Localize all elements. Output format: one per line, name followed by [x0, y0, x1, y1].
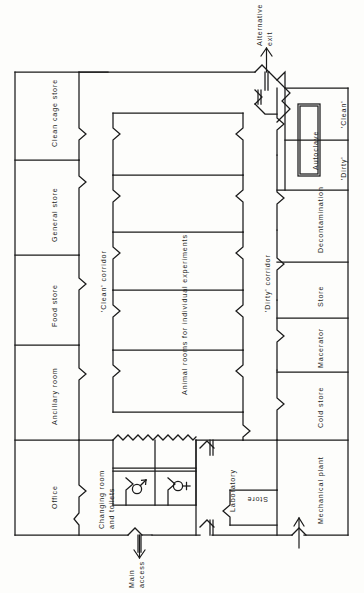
room-label-decontamination: Decontamination — [317, 186, 327, 253]
room-label-store-right: Store — [317, 286, 327, 307]
room-label-general-store: General store — [51, 187, 61, 242]
down-arrow-icon — [132, 534, 148, 560]
room-label-mechanical-plant: Mechanical plant — [317, 456, 327, 524]
room-label-store-lab: Store — [247, 493, 268, 503]
room-label-food-store: Food store — [51, 284, 61, 327]
room-label-cold-store: Cold store — [317, 387, 327, 428]
entry-arrow-icon — [292, 516, 308, 550]
up-arrow-icon — [259, 46, 275, 74]
floor-plan-diagram: Clean cage store General store Food stor… — [0, 0, 364, 593]
animal-rooms-label: Animal rooms for individual experiments — [181, 234, 191, 395]
corridor-label-dirty: 'Dirty' corridor — [264, 254, 274, 312]
zone-label-clean: 'Clean' — [340, 100, 350, 128]
equipment-label-autoclave: Autoclave — [312, 131, 322, 170]
room-label-ancillary-room: Ancillary room — [51, 367, 61, 425]
female-symbol-icon — [172, 477, 194, 495]
access-label-alternative-exit: Alternative exit — [256, 4, 275, 46]
room-label-laboratory: Laboratory — [229, 469, 239, 512]
room-label-changing-room-and-toilets: Changing room and toilets — [98, 470, 117, 529]
room-label-macerator: Macerator — [317, 328, 327, 368]
male-symbol-icon — [131, 478, 151, 496]
corridor-label-clean: 'Clean' corridor — [100, 250, 110, 312]
room-label-clean-cage-store: Clean cage store — [51, 79, 61, 147]
access-label-main-access: Main access — [128, 561, 147, 588]
room-label-office: Office — [51, 485, 61, 509]
zone-label-dirty: 'Dirty' — [340, 156, 350, 180]
